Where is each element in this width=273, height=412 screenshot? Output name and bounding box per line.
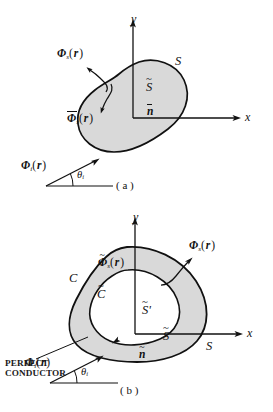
phi-symbol: Φ bbox=[189, 239, 198, 251]
panel-a-normal-label: n bbox=[147, 106, 153, 118]
panel-b-scattered-field-outer-label: Φs(r) bbox=[189, 240, 215, 253]
panel-b-x-axis-label: x bbox=[247, 327, 252, 339]
panel-a-incidence-angle-label: θi bbox=[77, 170, 84, 181]
paren-close: ) bbox=[79, 47, 83, 59]
panel-a-scattered-field-outer-label: Φs(r) bbox=[57, 48, 83, 61]
paren-close: ) bbox=[120, 256, 124, 268]
panel-b-y-axis-label: y bbox=[133, 211, 138, 223]
paren-close: ) bbox=[211, 239, 215, 251]
panel-a-incident-field-label: Φi(r) bbox=[21, 160, 46, 173]
panel-b-contour-inner-label: C bbox=[97, 288, 105, 301]
n-overbar: n bbox=[147, 106, 153, 118]
prime-mark: ' bbox=[148, 303, 151, 317]
s-tilde: S bbox=[146, 81, 152, 94]
panel-a-graphics bbox=[46, 19, 241, 186]
paren-close: ) bbox=[42, 159, 46, 171]
panel-a-surface-outer-label: S bbox=[175, 55, 181, 68]
panel-b-caption: ( b ) bbox=[120, 385, 138, 396]
phi-symbol-tilde: Φ bbox=[98, 256, 107, 268]
phi-subscript: s bbox=[76, 118, 79, 126]
panel-b-angle-arc bbox=[75, 371, 78, 383]
n-tilde: n bbox=[139, 349, 145, 361]
s-tilde: S bbox=[163, 330, 169, 343]
paren-close: ) bbox=[89, 112, 93, 124]
panel-a-y-axis-label: y bbox=[131, 13, 136, 25]
panel-a-angle-arc bbox=[71, 174, 74, 186]
figure-svg bbox=[0, 0, 273, 412]
panel-b-scattered-field-inner-label: Φs(r) bbox=[98, 257, 124, 270]
phi-symbol-overbar: Φ bbox=[67, 112, 76, 124]
panel-b-contour-outer-label: C bbox=[69, 272, 77, 285]
c-tilde: C bbox=[97, 288, 105, 301]
theta-subscript: i bbox=[82, 173, 84, 180]
panel-a-surface-inner-label: S bbox=[146, 81, 152, 94]
panel-b-surface-inner-prime-label: S' bbox=[142, 304, 151, 317]
paren-close: ) bbox=[46, 356, 50, 368]
s-tilde: S bbox=[142, 304, 148, 317]
figure-root: Φs(r) Φs(r) S S n Φi(r) θi y x ( a ) Φs(… bbox=[0, 0, 273, 412]
panel-a-caption: ( a ) bbox=[116, 180, 134, 191]
panel-a-incident-ray bbox=[46, 161, 95, 186]
panel-a-leader-outer-arrowhead bbox=[87, 67, 93, 73]
panel-a-scattered-field-inner-label: Φs(r) bbox=[67, 113, 93, 126]
conductor-line-2: CONDUCTOR bbox=[5, 368, 66, 378]
panel-b-incident-field-label: Φi(r) bbox=[25, 357, 50, 370]
panel-b-surface-inner-label: S bbox=[163, 330, 169, 343]
phi-symbol: Φ bbox=[21, 159, 30, 171]
phi-symbol: Φ bbox=[57, 47, 66, 59]
panel-b-surface-outer-label: S bbox=[206, 340, 212, 353]
theta-subscript: i bbox=[86, 370, 88, 377]
panel-b-incidence-angle-label: θi bbox=[81, 367, 88, 378]
panel-a-x-axis-label: x bbox=[245, 111, 250, 123]
panel-b-normal-label: n bbox=[139, 349, 145, 361]
phi-symbol: Φ bbox=[25, 356, 34, 368]
